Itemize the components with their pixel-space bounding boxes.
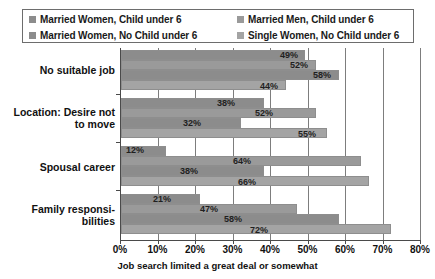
x-axis-tick-label: 50% <box>288 244 328 256</box>
category-label-family-responsibilities: Family responsi- bilities <box>1 203 115 227</box>
bar-value-label: 49% <box>280 50 298 60</box>
bar-value-label: 58% <box>313 70 331 80</box>
category-label-no-suitable-job: No suitable job <box>1 64 115 76</box>
legend-swatch-icon <box>237 32 244 39</box>
legend-entry-married-women-child-under-6[interactable]: Married Women, Child under 6 <box>29 11 237 27</box>
legend-label: Married Men, Child under 6 <box>248 14 374 25</box>
x-axis-tick-label: 70% <box>363 244 403 256</box>
bar-value-label: 32% <box>183 118 201 128</box>
bar-value-label: 12% <box>126 145 144 155</box>
category-label-line: Spousal career <box>40 161 115 173</box>
gridline-80 <box>420 48 421 240</box>
bar[interactable] <box>121 128 327 138</box>
x-axis-tick-label: 80% <box>400 244 435 256</box>
category-label-spousal-career: Spousal career <box>1 161 115 173</box>
bar-value-label: 52% <box>290 60 308 70</box>
bar[interactable] <box>121 60 316 70</box>
bar-value-label: 52% <box>255 108 273 118</box>
x-axis-tick-label: 20% <box>175 244 215 256</box>
bar-value-label: 21% <box>153 194 171 204</box>
x-axis-tick-label: 40% <box>250 244 290 256</box>
x-axis-tick-label: 10% <box>138 244 178 256</box>
category-label-line: No suitable job <box>40 64 115 76</box>
bar-value-label: 38% <box>180 166 198 176</box>
bar-value-label: 38% <box>217 98 235 108</box>
legend-swatch-icon <box>29 16 36 23</box>
y-axis-category-labels: No suitable job Location: Desire not to … <box>0 48 115 240</box>
bar-value-label: 72% <box>250 225 268 235</box>
y-axis-tick <box>116 190 120 191</box>
legend-entry-married-men-child-under-6[interactable]: Married Men, Child under 6 <box>237 11 374 27</box>
bar-value-label: 64% <box>233 156 251 166</box>
category-label-line: Location: Desire not <box>13 106 115 118</box>
bar[interactable] <box>121 98 264 108</box>
chart-plot-area: 49% 52% 58% 44% 38% 52% 32% 55% 12% 64% … <box>120 48 420 240</box>
legend-row-2: Married Women, No Child under 6 Single W… <box>23 27 413 43</box>
bar[interactable] <box>121 70 339 80</box>
bar-value-label: 47% <box>200 204 218 214</box>
category-label-location-desire-not-to-move: Location: Desire not to move <box>1 106 115 130</box>
y-axis-tick <box>116 94 120 95</box>
x-axis-tick-labels: 0% 10% 20% 30% 40% 50% 60% 70% 80% <box>0 244 435 258</box>
legend-label: Married Women, Child under 6 <box>40 14 181 25</box>
bar-value-label: 44% <box>260 81 278 91</box>
legend-entry-married-women-no-child-under-6[interactable]: Married Women, No Child under 6 <box>29 27 237 43</box>
gridline-60 <box>345 48 346 240</box>
x-axis-title: Job search limited a great deal or somew… <box>0 260 435 271</box>
bar[interactable] <box>121 108 316 118</box>
bar[interactable] <box>121 50 305 60</box>
gridline-70 <box>383 48 384 240</box>
legend-swatch-icon <box>237 16 244 23</box>
bar[interactable] <box>121 118 241 128</box>
legend-label: Single Women, No Child under 6 <box>248 30 399 41</box>
bar-value-label: 66% <box>238 177 256 187</box>
y-axis-tick <box>116 142 120 143</box>
bar-value-label: 58% <box>224 214 242 224</box>
legend-row-1: Married Women, Child under 6 Married Men… <box>23 11 413 27</box>
legend-label: Married Women, No Child under 6 <box>40 30 197 41</box>
x-axis-tick-label: 0% <box>100 244 140 256</box>
category-label-line: to move <box>75 118 115 130</box>
legend-entry-single-women-no-child-under-6[interactable]: Single Women, No Child under 6 <box>237 27 399 43</box>
category-label-line: Family responsi- <box>32 203 115 215</box>
x-axis-tick-label: 60% <box>325 244 365 256</box>
legend-swatch-icon <box>29 32 36 39</box>
bar-value-label: 55% <box>298 129 316 139</box>
chart-legend: Married Women, Child under 6 Married Men… <box>22 9 414 43</box>
category-label-line: bilities <box>82 215 115 227</box>
x-axis-tick-label: 30% <box>213 244 253 256</box>
